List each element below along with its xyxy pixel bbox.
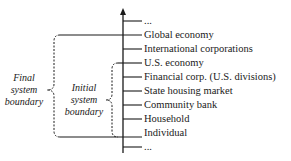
initial-line2: system bbox=[62, 94, 106, 106]
initial-boundary-brace bbox=[106, 63, 118, 137]
level-label-6: Community bank bbox=[144, 99, 217, 111]
initial-boundary-label: Initial system boundary bbox=[62, 82, 106, 118]
level-label-0: ... bbox=[144, 15, 152, 27]
initial-line1: Initial bbox=[62, 82, 106, 94]
axis-arrow-icon bbox=[120, 8, 126, 15]
final-line2: system bbox=[2, 84, 46, 96]
initial-line3: boundary bbox=[62, 106, 106, 118]
level-label-3: U.S. economy bbox=[144, 57, 204, 69]
level-label-8: Individual bbox=[144, 127, 187, 139]
final-boundary-brace bbox=[47, 35, 60, 137]
final-boundary-label: Final system boundary bbox=[2, 72, 46, 108]
level-label-7: Household bbox=[144, 113, 190, 125]
final-line1: Final bbox=[2, 72, 46, 84]
final-line3: boundary bbox=[2, 96, 46, 108]
level-label-2: International corporations bbox=[144, 43, 253, 55]
level-label-4: Financial corp. (U.S. divisions) bbox=[144, 71, 276, 83]
level-label-1: Global economy bbox=[144, 29, 214, 41]
level-label-9: ... bbox=[144, 141, 152, 153]
level-label-5: State housing market bbox=[144, 85, 233, 97]
